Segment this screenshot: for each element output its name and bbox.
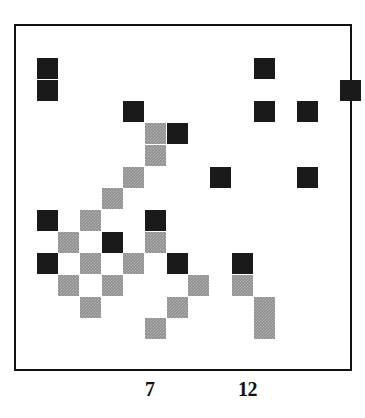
plot-frame — [14, 24, 352, 371]
data-cell — [145, 123, 166, 144]
data-cell — [297, 101, 318, 122]
data-cell — [232, 253, 253, 274]
data-cell — [123, 253, 144, 274]
data-cell — [123, 167, 144, 188]
chart-page: 712 — [0, 0, 365, 418]
data-cell — [80, 297, 101, 318]
data-cell — [254, 297, 275, 318]
data-cell — [210, 167, 231, 188]
data-cell — [102, 188, 123, 209]
x-axis-tick-label: 7 — [145, 377, 155, 401]
data-cell — [37, 58, 58, 79]
data-cell — [37, 80, 58, 101]
data-cell — [167, 123, 188, 144]
data-cell — [254, 101, 275, 122]
data-cell — [123, 101, 144, 122]
data-cell — [102, 275, 123, 296]
data-cell — [37, 253, 58, 274]
data-cell — [232, 275, 253, 296]
data-cell — [145, 318, 166, 339]
x-axis-tick-labels: 712 — [0, 378, 365, 412]
data-cell — [102, 232, 123, 253]
data-cell — [254, 58, 275, 79]
data-cell — [145, 145, 166, 166]
data-cell — [167, 297, 188, 318]
data-cell — [297, 167, 318, 188]
data-cell — [145, 210, 166, 231]
data-cell — [80, 210, 101, 231]
x-axis-tick-label: 12 — [238, 377, 257, 401]
data-marks-layer — [16, 26, 350, 369]
data-cell — [167, 253, 188, 274]
data-cell — [80, 253, 101, 274]
data-cell — [254, 318, 275, 339]
data-cell — [145, 232, 166, 253]
data-cell — [340, 80, 361, 101]
data-cell — [58, 232, 79, 253]
data-cell — [58, 275, 79, 296]
data-cell — [37, 210, 58, 231]
data-cell — [188, 275, 209, 296]
